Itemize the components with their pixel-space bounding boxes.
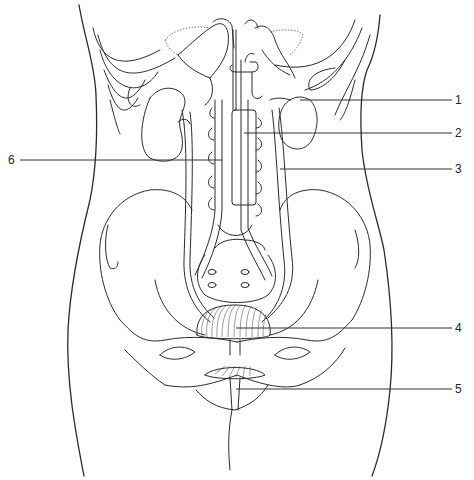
body-outline bbox=[68, 5, 392, 476]
sacrum bbox=[198, 225, 276, 303]
left-kidney bbox=[142, 88, 190, 161]
right-ribcage bbox=[270, 20, 370, 120]
urinary-system-diagram bbox=[0, 0, 474, 480]
label-1: 1 bbox=[455, 94, 462, 106]
ureters bbox=[182, 108, 293, 322]
urinary-bladder bbox=[197, 305, 270, 355]
label-5: 5 bbox=[455, 383, 462, 395]
label-3: 3 bbox=[455, 163, 462, 175]
pelvis bbox=[100, 190, 371, 387]
spine bbox=[208, 19, 262, 216]
leader-lines bbox=[20, 100, 452, 389]
label-6: 6 bbox=[8, 154, 15, 166]
label-4: 4 bbox=[455, 322, 462, 334]
label-2: 2 bbox=[455, 127, 462, 139]
right-kidney bbox=[270, 97, 317, 149]
